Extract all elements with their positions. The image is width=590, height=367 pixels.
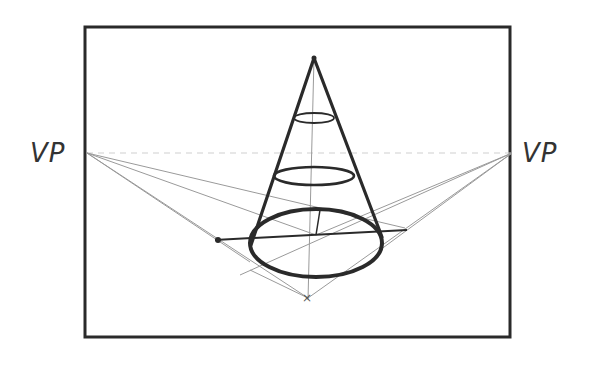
svg-text:×: ×: [302, 291, 312, 305]
vp-right-label: VP: [522, 138, 557, 168]
apex-point: [312, 56, 317, 61]
perspective-guides: [87, 58, 512, 300]
top-ellipse: [294, 113, 334, 123]
mid-ellipse: [274, 167, 354, 185]
vp-left-label: VP: [30, 138, 65, 168]
cone-perspective-drawing: ×: [0, 0, 590, 367]
cone: [250, 58, 382, 277]
base-ellipse: [250, 209, 382, 277]
